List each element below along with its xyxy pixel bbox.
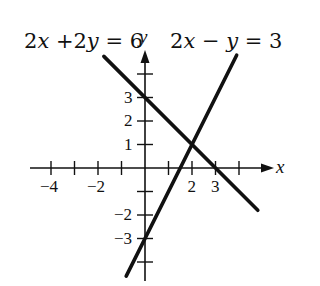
eq1-rest: = 6 bbox=[99, 29, 143, 53]
y-tick-label: 1 bbox=[124, 136, 133, 153]
y-tick-label: 2 bbox=[124, 112, 133, 129]
eq1-coef: 2 bbox=[24, 29, 37, 53]
y-tick-label: −2 bbox=[114, 206, 132, 223]
x-axis-arrow-icon bbox=[261, 164, 274, 173]
x-tick-label: 3 bbox=[211, 178, 220, 195]
eq2-coef: 2 bbox=[170, 29, 183, 53]
eq1-mid: +2 bbox=[49, 29, 87, 53]
series-line-2 bbox=[126, 55, 236, 276]
eq1-var-x: x bbox=[37, 29, 49, 53]
axes bbox=[30, 50, 274, 281]
x-axis-label: x bbox=[276, 157, 284, 176]
x-tick-label: 2 bbox=[188, 178, 197, 195]
x-tick-label: −2 bbox=[87, 178, 105, 195]
y-tick-label: 3 bbox=[124, 89, 133, 106]
equation-label-line2: 2x − y = 3 bbox=[170, 31, 282, 52]
eq1-var-y: y bbox=[87, 29, 99, 53]
y-axis-label: y bbox=[139, 27, 147, 46]
y-tick-label: −3 bbox=[114, 230, 132, 247]
eq2-var-x: x bbox=[183, 29, 195, 53]
series-line-1 bbox=[104, 56, 258, 210]
eq2-var-y: y bbox=[226, 29, 238, 53]
eq2-rest: = 3 bbox=[238, 29, 282, 53]
equation-label-line1: 2x +2y = 6 bbox=[24, 31, 143, 52]
x-tick-label: −4 bbox=[40, 178, 58, 195]
eq2-mid: − bbox=[195, 29, 226, 53]
